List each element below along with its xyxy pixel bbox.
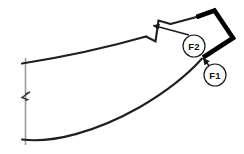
callout-f1: F1: [204, 64, 226, 86]
callout-f1-label: F1: [209, 70, 221, 81]
callout-f2-label: F2: [188, 41, 200, 52]
callout-f2: F2: [183, 35, 205, 57]
figure-canvas: F2 F1: [0, 0, 244, 154]
engineering-drawing-figure: F2 F1: [0, 0, 244, 154]
